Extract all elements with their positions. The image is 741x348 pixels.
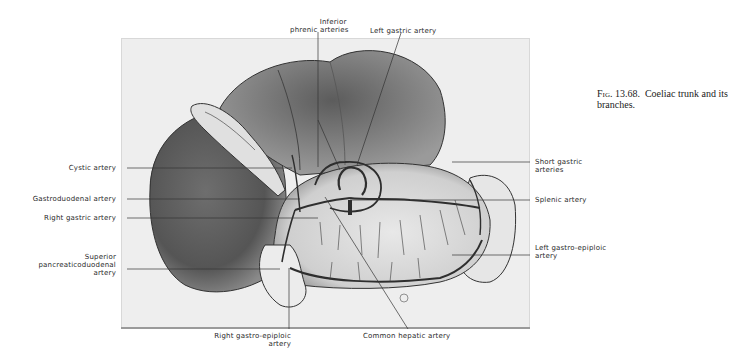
label-right-gastric: Right gastric artery	[44, 214, 116, 222]
label-splenic: Splenic artery	[535, 196, 587, 204]
fig-prefix: Fig.	[597, 88, 612, 99]
label-common-hepatic: Common hepatic artery	[363, 332, 450, 340]
label-line: Right gastro-epiploic	[210, 332, 291, 340]
label-gastroduodenal: Gastroduodenal artery	[33, 195, 116, 203]
label-line: Superior	[38, 253, 116, 261]
label-line: Left gastro-epiploic	[535, 244, 606, 252]
label-line: Short gastric	[535, 158, 582, 166]
label-line: phrenic arteries	[290, 26, 349, 34]
figure-caption: Fig. 13.68. Coeliac trunk and its branch…	[597, 88, 741, 110]
label-line: artery	[535, 252, 606, 260]
label-inferior-phrenic: Inferior phrenic arteries	[290, 18, 349, 34]
label-left-gastro-epiploic: Left gastro-epiploic artery	[535, 244, 606, 260]
label-left-gastric: Left gastric artery	[370, 27, 436, 35]
label-right-gastro-epiploic: Right gastro-epiploic artery	[210, 332, 291, 348]
node-marker	[400, 294, 408, 302]
label-line: artery	[38, 269, 116, 277]
label-line: arteries	[535, 166, 582, 174]
label-cystic: Cystic artery	[69, 164, 116, 172]
label-line: artery	[210, 340, 291, 348]
fig-number: 13.68.	[615, 88, 640, 99]
label-superior-pancreaticoduodenal: Superior pancreaticoduodenal artery	[38, 253, 116, 277]
caption-line-1: Fig. 13.68. Coeliac trunk and its	[597, 88, 741, 99]
label-short-gastric: Short gastric arteries	[535, 158, 582, 174]
label-line: Inferior	[290, 18, 349, 26]
caption-line-2: branches.	[597, 99, 741, 110]
label-line: pancreaticoduodenal	[38, 261, 116, 269]
caption-text: Coeliac trunk and its	[645, 88, 728, 99]
